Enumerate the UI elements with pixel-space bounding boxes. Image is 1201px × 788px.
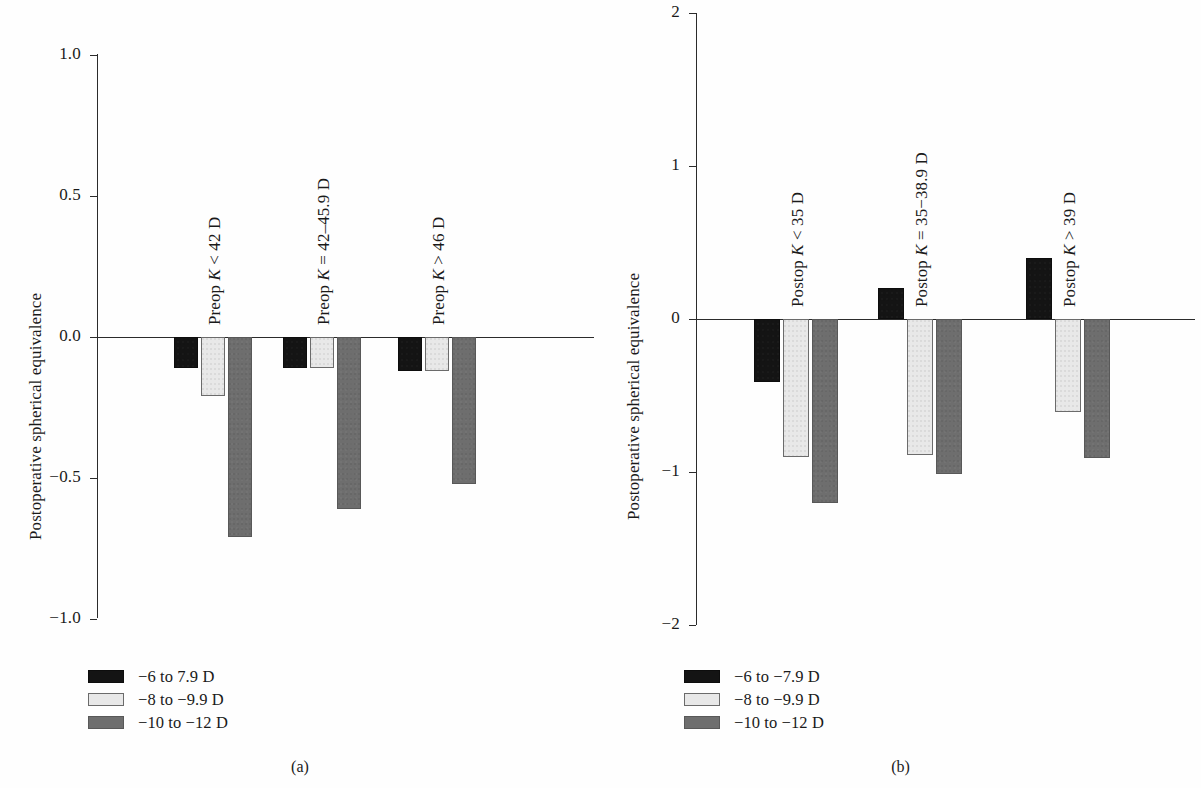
group-label-suffix: > 46 D <box>429 217 448 269</box>
bar <box>174 337 198 368</box>
group-label-suffix: < 42 D <box>205 217 224 269</box>
legend-b: −6 to −7.9 D−8 to −9.9 D−10 to −12 D <box>684 665 824 734</box>
group-label-variable: K <box>429 269 448 280</box>
legend-swatch <box>684 670 720 683</box>
legend-swatch <box>684 693 720 706</box>
y-axis-tick-label: 1.0 <box>13 44 81 64</box>
y-axis-tick <box>689 13 696 14</box>
y-axis-tick-label: 0.0 <box>13 326 81 346</box>
y-axis-tick <box>90 337 97 338</box>
panel-caption-b: (b) <box>600 758 1201 776</box>
legend-swatch <box>88 716 124 729</box>
legend-item-2: −8 to −9.9 D <box>684 688 824 711</box>
group-label-variable: K <box>788 244 807 255</box>
y-axis-tick-label: −1 <box>612 461 680 481</box>
legend-a: −6 to 7.9 D−8 to −9.9 D−10 to −12 D <box>88 665 228 734</box>
group-label-3: Preop K > 46 D <box>429 217 449 325</box>
y-axis-tick-label: 0.5 <box>13 185 81 205</box>
y-axis-tick-label: 1 <box>612 155 680 175</box>
bar <box>452 337 476 484</box>
y-axis-tick <box>689 472 696 473</box>
group-label-1: Preop K < 42 D <box>205 217 225 325</box>
bar <box>936 319 962 474</box>
legend-item-1: −6 to −7.9 D <box>684 665 824 688</box>
bar <box>1055 319 1081 412</box>
y-axis-line <box>97 54 98 618</box>
group-label-variable: K <box>912 244 931 255</box>
y-axis-tick <box>689 625 696 626</box>
bar <box>754 319 780 382</box>
y-axis-tick <box>689 319 696 320</box>
group-label-prefix: Preop <box>314 280 333 325</box>
bar <box>310 337 334 368</box>
legend-label: −8 to −9.9 D <box>138 690 224 710</box>
group-label-prefix: Postop <box>912 256 931 307</box>
y-axis-tick-label: −1.0 <box>13 608 81 628</box>
group-label-2: Preop K = 42–45.9 D <box>314 178 334 325</box>
bar <box>1026 258 1052 319</box>
group-label-suffix: = 35−38.9 D <box>912 152 931 244</box>
bar <box>201 337 225 396</box>
group-label-3: Postop K > 39 D <box>1060 192 1080 307</box>
y-axis-tick-label: 0 <box>612 308 680 328</box>
group-label-prefix: Preop <box>205 280 224 325</box>
legend-item-3: −10 to −12 D <box>88 711 228 734</box>
group-label-suffix: = 42–45.9 D <box>314 178 333 269</box>
group-label-suffix: > 39 D <box>1060 192 1079 244</box>
group-label-variable: K <box>205 269 224 280</box>
bar <box>398 337 422 371</box>
group-label-prefix: Postop <box>788 256 807 307</box>
y-axis-title-b: Postoperative spherical equivalence <box>624 273 644 520</box>
bar <box>425 337 449 371</box>
bar <box>283 337 307 368</box>
group-label-suffix: < 35 D <box>788 192 807 244</box>
legend-swatch <box>88 693 124 706</box>
legend-swatch <box>684 716 720 729</box>
group-label-prefix: Postop <box>1060 256 1079 307</box>
y-axis-tick-label: −0.5 <box>13 467 81 487</box>
bar <box>907 319 933 455</box>
group-label-variable: K <box>314 269 333 280</box>
panel-caption-a: (a) <box>0 758 600 776</box>
bar <box>337 337 361 509</box>
group-label-variable: K <box>1060 244 1079 255</box>
bar <box>812 319 838 503</box>
legend-item-3: −10 to −12 D <box>684 711 824 734</box>
y-axis-tick <box>90 196 97 197</box>
legend-item-1: −6 to 7.9 D <box>88 665 228 688</box>
legend-label: −10 to −12 D <box>734 713 824 733</box>
panel-b: 210−1−2 Postoperative spherical equivale… <box>600 0 1201 788</box>
legend-label: −6 to 7.9 D <box>138 667 214 687</box>
bar <box>783 319 809 457</box>
y-axis-tick <box>90 478 97 479</box>
bar <box>1084 319 1110 458</box>
legend-label: −8 to −9.9 D <box>734 690 820 710</box>
group-label-prefix: Preop <box>429 280 448 325</box>
group-label-2: Postop K = 35−38.9 D <box>912 152 932 307</box>
group-label-1: Postop K < 35 D <box>788 192 808 307</box>
bar <box>228 337 252 537</box>
figure-root: 1.00.50.0−0.5−1.0 Postoperative spherica… <box>0 0 1201 788</box>
bar <box>878 288 904 319</box>
y-axis-tick-label: 2 <box>612 2 680 22</box>
y-axis-tick-label: −2 <box>612 614 680 634</box>
y-axis-title-a: Postoperative spherical equivalence <box>26 293 46 540</box>
legend-swatch <box>88 670 124 683</box>
legend-item-2: −8 to −9.9 D <box>88 688 228 711</box>
panel-a: 1.00.50.0−0.5−1.0 Postoperative spherica… <box>0 0 600 788</box>
legend-label: −10 to −12 D <box>138 713 228 733</box>
legend-label: −6 to −7.9 D <box>734 667 820 687</box>
y-axis-tick <box>689 166 696 167</box>
y-axis-tick <box>90 619 97 620</box>
y-axis-tick <box>90 55 97 56</box>
